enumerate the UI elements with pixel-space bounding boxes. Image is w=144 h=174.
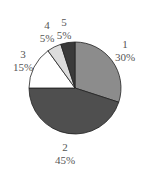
slice-5-name: 5	[61, 16, 67, 28]
slice-4-name: 4	[44, 19, 50, 31]
slice-3-pct: 15%	[13, 61, 33, 73]
pie-chart: 1 30% 2 45% 3 15% 4 5% 5 5%	[0, 0, 144, 174]
slice-2-pct: 45%	[55, 154, 75, 166]
slice-1-name: 1	[122, 38, 128, 50]
slice-5-pct: 5%	[57, 29, 72, 41]
pie-slices	[29, 42, 121, 134]
slice-2-name: 2	[62, 141, 68, 153]
slice-4-pct: 5%	[40, 32, 55, 44]
slice-3-name: 3	[20, 48, 26, 60]
slice-1-pct: 30%	[115, 51, 135, 63]
